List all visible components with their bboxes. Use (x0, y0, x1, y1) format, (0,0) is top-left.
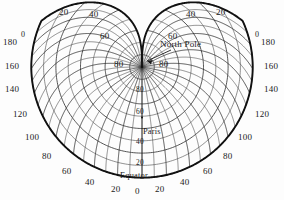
label-axis-60: 60 (136, 108, 144, 115)
label-left-60: 60 (62, 167, 71, 176)
label-equator: Equator (120, 172, 148, 180)
label-top-right-40: 40 (186, 10, 195, 19)
label-right-40: 40 (180, 178, 189, 187)
label-top-right-60: 60 (168, 32, 177, 41)
label-left-20: 20 (111, 185, 120, 194)
label-top-left-60: 60 (100, 32, 109, 41)
label-left-80: 80 (42, 152, 51, 161)
label-top-left-40: 40 (89, 10, 98, 19)
label-left-180: 180 (3, 38, 17, 47)
label-left-40: 40 (85, 178, 94, 187)
label-pole-left-80: 80 (114, 60, 123, 69)
label-left-140: 140 (5, 85, 19, 94)
label-bottom-0: 0 (135, 187, 140, 196)
annotation-north-pole: North Pole (160, 40, 201, 49)
label-top-right-20: 20 (216, 8, 225, 17)
label-right-60: 60 (203, 167, 212, 176)
label-right-20: 20 (155, 185, 164, 194)
label-left-120: 120 (13, 110, 27, 119)
werner-projection-figure (0, 0, 284, 200)
projection-graticule-svg (0, 0, 284, 200)
label-pole-right-80: 80 (159, 60, 168, 69)
label-left-0: 0 (21, 31, 25, 39)
label-right-120: 120 (255, 110, 269, 119)
label-left-100: 100 (25, 133, 39, 142)
label-right-160: 160 (264, 62, 278, 71)
label-axis-40: 40 (136, 138, 144, 145)
paris-marker (141, 116, 143, 118)
label-right-0: 0 (255, 31, 259, 39)
label-top-left-20: 20 (59, 8, 68, 17)
label-right-100: 100 (238, 133, 252, 142)
north-pole-marker (141, 66, 143, 68)
label-axis-20: 20 (136, 159, 144, 166)
label-axis-80: 80 (136, 86, 144, 93)
label-right-180: 180 (261, 38, 275, 47)
label-right-140: 140 (264, 85, 278, 94)
label-right-80: 80 (223, 152, 232, 161)
label-paris: Paris (143, 128, 161, 136)
label-left-160: 160 (5, 62, 19, 71)
